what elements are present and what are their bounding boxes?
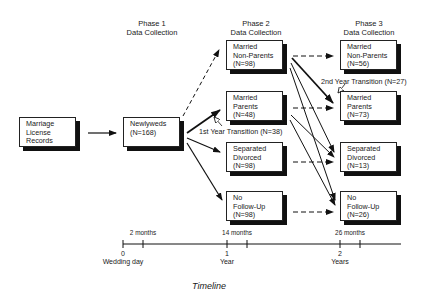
phase-subtitle: Data Collection [211,28,301,37]
box-line: (N=26) [347,211,396,220]
newlyweds-box: Newlyweds (N=168) [123,117,180,147]
box-line: Records [26,137,75,146]
timeline-caption: Timeline [192,281,226,291]
phase-title: Phase 3 [324,19,414,28]
box-line: (N=98) [233,60,282,69]
box-line: (N=13) [347,162,396,171]
phase2-no-follow-up-box: No Follow-Up (N=98) [226,191,283,221]
timeline-2-years: 2 Years [320,250,360,266]
tick-number: 1 [207,250,247,258]
second-year-transition-label: 2nd Year Transition (N=27) [321,77,407,86]
box-line: (N=168) [130,129,179,138]
phase3-no-follow-up-box: No Follow-Up (N=26) [340,191,397,221]
timeline-26-months: 26 months [325,229,375,236]
phase2-separated-divorced-box: Separated Divorced (N=98) [226,142,283,172]
phase-title: Phase 1 [107,19,197,28]
phase2-married-parents-box: Married Parents (N=48) [226,91,283,121]
study-design-diagram: Phase 1 Data Collection Phase 2 Data Col… [0,0,436,305]
marriage-license-records-box: Marriage License Records [19,117,76,147]
phase2-married-non-parents-box: Married Non-Parents (N=98) [226,40,283,70]
box-line: (N=98) [233,162,282,171]
first-year-transition-label: 1st Year Transition (N=38) [199,127,282,136]
phase-title: Phase 2 [211,19,301,28]
timeline-wedding-day: 0 Wedding day [93,250,153,266]
timeline-1-year: 1 Year [207,250,247,266]
tick-number: 0 [93,250,153,258]
phase-subtitle: Data Collection [107,28,197,37]
timeline-2-months: 2 months [118,229,168,236]
box-line: (N=73) [347,111,396,120]
phase3-married-non-parents-box: Married Non-Parents (N=56) [340,40,397,70]
tick-label: Wedding day [93,258,153,266]
phase-1-heading: Phase 1 Data Collection [107,19,197,37]
phase3-married-parents-box: Married Parents (N=73) [340,91,397,121]
box-line: (N=98) [233,211,282,220]
tick-label: Years [320,258,360,266]
tick-number: 2 [320,250,360,258]
tick-label: Year [207,258,247,266]
phase-3-heading: Phase 3 Data Collection [324,19,414,37]
phase-subtitle: Data Collection [324,28,414,37]
phase-2-heading: Phase 2 Data Collection [211,19,301,37]
box-line: (N=48) [233,111,282,120]
phase3-separated-divorced-box: Separated Divorced (N=13) [340,142,397,172]
timeline-14-months: 14 months [212,229,262,236]
box-line: (N=56) [347,60,396,69]
